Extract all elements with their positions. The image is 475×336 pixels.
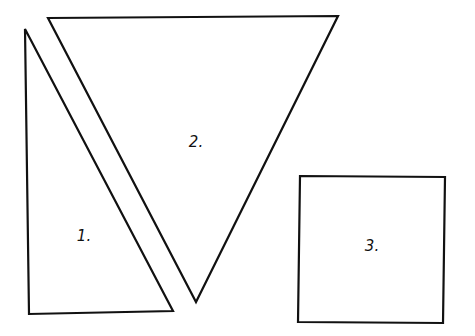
label-3: 3. <box>365 239 379 254</box>
shapes-diagram <box>0 0 475 336</box>
triangle-2 <box>48 16 338 302</box>
triangle-1 <box>25 29 173 314</box>
label-2: 2. <box>189 135 203 150</box>
label-1: 1. <box>77 229 91 244</box>
